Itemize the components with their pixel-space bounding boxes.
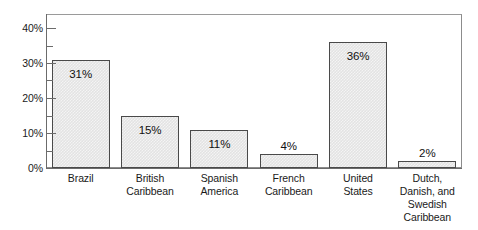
category-label: FrenchCaribbean — [254, 172, 323, 198]
category-label-line: Danish, and — [393, 185, 462, 198]
category-label: UnitedStates — [323, 172, 392, 198]
y-axis-tick-major — [47, 98, 56, 99]
y-axis-labels: 0%10%20%30%40% — [0, 0, 43, 230]
category-label-line: Dutch, — [393, 172, 462, 185]
bar[interactable]: 4% — [260, 154, 318, 168]
y-axis-tick-label: 20% — [1, 93, 43, 104]
category-label-line: Caribbean — [115, 185, 184, 198]
x-axis-baseline — [46, 168, 462, 169]
category-label-line: British — [115, 172, 184, 185]
y-axis-tick-minor — [47, 151, 53, 152]
y-axis-tick-major — [47, 63, 56, 64]
bar-value-label: 11% — [191, 139, 247, 151]
bar-chart: 0%10%20%30%40% 31%15%11%4%36%2% BrazilBr… — [0, 0, 478, 230]
category-label-line: Brazil — [46, 172, 115, 185]
bar[interactable]: 36% — [329, 42, 387, 168]
y-axis-tick-minor — [47, 80, 53, 81]
bar-value-label: 4% — [261, 141, 317, 153]
category-label-line: Caribbean — [254, 185, 323, 198]
category-label-line: States — [323, 185, 392, 198]
bar-slot: 15% — [121, 14, 179, 168]
bar-value-label: 36% — [330, 51, 386, 63]
bars-layer: 31%15%11%4%36%2% — [46, 14, 462, 168]
category-label: BritishCaribbean — [115, 172, 184, 198]
y-axis-tick-minor — [47, 46, 53, 47]
category-label: Brazil — [46, 172, 115, 185]
category-label: Dutch,Danish, andSwedishCaribbean — [393, 172, 462, 224]
y-axis-tick-label: 30% — [1, 58, 43, 69]
category-label-line: French — [254, 172, 323, 185]
category-labels: BrazilBritishCaribbeanSpanishAmericaFren… — [46, 172, 462, 230]
bar-slot: 11% — [190, 14, 248, 168]
category-label-line: Spanish — [185, 172, 254, 185]
y-axis-tick-minor — [47, 116, 53, 117]
category-label: SpanishAmerica — [185, 172, 254, 198]
y-axis-tick-major — [47, 28, 56, 29]
bar[interactable]: 31% — [52, 60, 110, 169]
category-label-line: Swedish — [393, 198, 462, 211]
bar-slot: 36% — [329, 14, 387, 168]
bar[interactable]: 15% — [121, 116, 179, 169]
y-axis-tick-major — [47, 133, 56, 134]
y-axis-tick-label: 40% — [1, 23, 43, 34]
y-axis-tick-label: 0% — [1, 163, 43, 174]
y-axis-tick-label: 10% — [1, 128, 43, 139]
category-label-line: Caribbean — [393, 211, 462, 224]
bar-slot: 2% — [398, 14, 456, 168]
bar-value-label: 15% — [122, 125, 178, 137]
y-axis-tick-major — [47, 168, 56, 169]
bar-slot: 4% — [260, 14, 318, 168]
category-label-line: United — [323, 172, 392, 185]
bar-slot: 31% — [52, 14, 110, 168]
bar[interactable]: 2% — [398, 161, 456, 168]
bar[interactable]: 11% — [190, 130, 248, 169]
bar-value-label: 31% — [53, 69, 109, 81]
bar-value-label: 2% — [399, 148, 455, 160]
category-label-line: America — [185, 185, 254, 198]
